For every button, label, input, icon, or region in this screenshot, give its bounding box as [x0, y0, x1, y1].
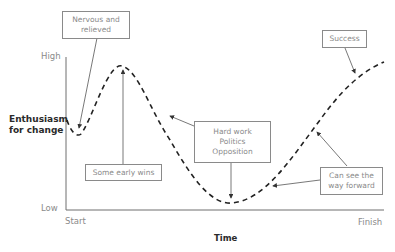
callout-hard-work: Hard work Politics Opposition: [194, 121, 271, 163]
arrow-success: [345, 48, 355, 73]
y-axis-high-label: High: [41, 51, 61, 61]
y-axis-title: Enthusiasm for change: [9, 114, 68, 136]
x-axis-title: Time: [214, 233, 237, 243]
x-axis-start-label: Start: [65, 216, 86, 226]
arrow-way-forward-2: [317, 132, 347, 166]
callout-nervous: Nervous and relieved: [62, 11, 130, 39]
arrow-way-forward-1: [273, 180, 320, 186]
arrow-hard-work: [170, 116, 194, 126]
callout-success: Success: [322, 30, 367, 48]
arrow-nervous: [79, 38, 97, 128]
callout-way-forward: Can see the way forward: [320, 167, 383, 195]
x-axis-finish-label: Finish: [358, 217, 382, 227]
callout-early-wins: Some early wins: [85, 164, 162, 181]
y-axis-low-label: Low: [41, 203, 58, 213]
